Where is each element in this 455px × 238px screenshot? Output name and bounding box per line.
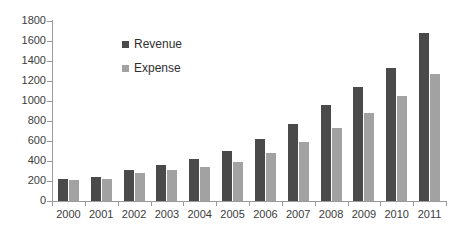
x-axis-label-2009: 2009 bbox=[347, 208, 381, 220]
bar-expense-2003 bbox=[167, 170, 177, 201]
x-axis-label-2004: 2004 bbox=[183, 208, 217, 220]
x-axis-label-2002: 2002 bbox=[117, 208, 151, 220]
bar-revenue-2000 bbox=[58, 179, 68, 202]
bar-expense-2010 bbox=[397, 96, 407, 201]
legend-label-revenue: Revenue bbox=[134, 38, 182, 51]
legend-label-expense: Expense bbox=[134, 62, 181, 75]
bar-expense-2009 bbox=[364, 113, 374, 201]
legend-swatch-revenue-icon bbox=[122, 41, 129, 48]
bars-layer bbox=[0, 0, 455, 238]
x-axis-label-2008: 2008 bbox=[314, 208, 348, 220]
x-axis-label-2000: 2000 bbox=[51, 208, 85, 220]
bar-revenue-2006 bbox=[255, 139, 265, 201]
bar-revenue-2011 bbox=[419, 33, 429, 201]
bar-revenue-2009 bbox=[353, 87, 363, 201]
bar-revenue-2004 bbox=[189, 159, 199, 202]
x-axis-label-2011: 2011 bbox=[413, 208, 447, 220]
bar-expense-2011 bbox=[430, 74, 440, 201]
bar-revenue-2001 bbox=[91, 177, 101, 202]
bar-expense-2008 bbox=[332, 128, 342, 201]
bar-revenue-2003 bbox=[156, 165, 166, 202]
x-axis-label-2007: 2007 bbox=[281, 208, 315, 220]
bar-chart: 020040060080010001200140016001800 200020… bbox=[0, 0, 455, 238]
legend-item-revenue: Revenue bbox=[122, 38, 182, 51]
x-axis-label-2003: 2003 bbox=[150, 208, 184, 220]
x-axis-label-2001: 2001 bbox=[84, 208, 118, 220]
bar-revenue-2010 bbox=[386, 68, 396, 201]
bar-expense-2007 bbox=[299, 142, 309, 201]
bar-revenue-2008 bbox=[321, 105, 331, 202]
chart-legend: Revenue Expense bbox=[122, 38, 182, 86]
bar-expense-2001 bbox=[102, 179, 112, 202]
bar-revenue-2007 bbox=[288, 124, 298, 202]
x-axis-label-2006: 2006 bbox=[248, 208, 282, 220]
bar-revenue-2002 bbox=[124, 170, 134, 201]
bar-revenue-2005 bbox=[222, 151, 232, 201]
bar-expense-2000 bbox=[69, 180, 79, 201]
bar-expense-2004 bbox=[200, 167, 210, 201]
bar-expense-2006 bbox=[266, 153, 276, 201]
x-axis-label-2010: 2010 bbox=[380, 208, 414, 220]
legend-swatch-expense-icon bbox=[122, 65, 129, 72]
bar-expense-2002 bbox=[135, 173, 145, 201]
bar-expense-2005 bbox=[233, 162, 243, 202]
x-axis-label-2005: 2005 bbox=[216, 208, 250, 220]
legend-item-expense: Expense bbox=[122, 62, 182, 75]
